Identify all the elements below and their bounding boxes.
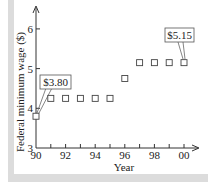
x-ticks: 909294969800	[31, 144, 191, 161]
x-tick-label: 00	[179, 149, 191, 161]
data-point-marker	[107, 95, 113, 101]
x-tick-label: 90	[31, 149, 43, 161]
x-tick-label: 92	[60, 149, 71, 161]
data-point-marker	[181, 60, 187, 66]
data-point-marker	[33, 113, 39, 119]
x-tick-label: 96	[119, 149, 131, 161]
callout-last-label: $5.15	[167, 29, 192, 41]
callout-first-label: $3.80	[43, 76, 68, 88]
callout-last: $5.15	[165, 28, 194, 59]
y-axis	[33, 6, 39, 148]
y-axis-title: Federal minimum wage ($)	[14, 32, 27, 152]
data-point-marker	[151, 60, 157, 66]
scatter-chart: 3456 909294969800 Year Federal minimum w…	[0, 0, 210, 186]
y-tick-label: 6	[28, 23, 34, 35]
y-tick-label: 4	[28, 102, 34, 114]
data-point-marker	[166, 60, 172, 66]
data-point-marker	[48, 95, 54, 101]
y-ticks: 3456	[28, 23, 41, 154]
y-tick-label: 5	[28, 63, 34, 75]
data-point-marker	[122, 76, 128, 82]
x-tick-label: 98	[149, 149, 161, 161]
x-tick-label: 94	[90, 149, 102, 161]
data-point-marker	[137, 60, 143, 66]
data-point-marker	[92, 95, 98, 101]
data-points	[33, 60, 187, 120]
x-axis-title: Year	[114, 161, 135, 173]
data-point-marker	[63, 95, 69, 101]
data-point-marker	[77, 95, 83, 101]
callout-first: $3.80	[37, 75, 71, 113]
